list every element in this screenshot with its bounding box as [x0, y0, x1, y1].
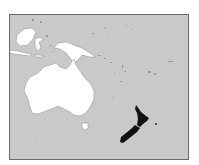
locator-map: [10, 15, 188, 159]
map-frame: [9, 14, 189, 160]
chatham-islands: [155, 123, 157, 125]
